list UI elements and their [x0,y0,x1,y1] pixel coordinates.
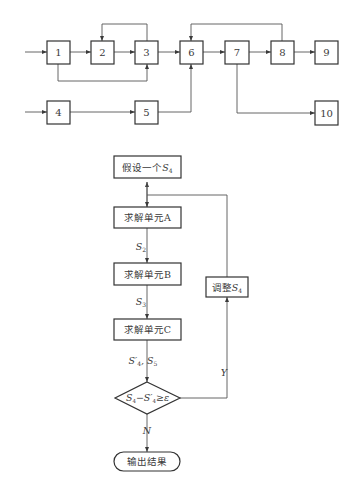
block-4-label: 4 [55,107,61,118]
block-6-label: 6 [188,47,194,58]
solve-b-label: 求解单元B [124,269,171,280]
start-label: 假设一个S4 [122,162,173,174]
block-3-label: 3 [143,47,149,58]
block-8-label: 8 [279,47,285,58]
block-diagram-connectors [25,24,315,113]
block-7-label: 7 [234,47,240,58]
yes-label: Y [221,367,229,378]
c-output-label: S′4, S5 [129,355,158,367]
block-5-label: 5 [143,107,149,118]
block-10-label: 10 [320,108,333,119]
solve-a-label: 求解单元A [124,212,171,223]
no-label: N [142,425,152,436]
block-1-label: 1 [55,47,61,58]
s3-label: S3 [136,296,147,308]
adjust-label: 调整S4 [212,282,243,294]
block-2-label: 2 [99,47,105,58]
s2-label: S2 [136,241,147,253]
diagram-canvas: 1 2 3 4 5 6 7 8 9 10 假设一个S4 求解单元A S2 求解单 [0,0,363,504]
decision-label: S4−S′4≥ε [126,392,169,404]
solve-c-label: 求解单元C [124,324,171,335]
block-9-label: 9 [323,47,329,58]
flowchart-shapes [114,156,248,471]
end-label: 输出结果 [127,456,167,467]
